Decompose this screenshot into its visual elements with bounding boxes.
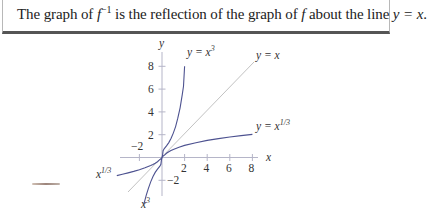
cubic-bottom-label: x3	[140, 196, 150, 210]
line-equation: y = x	[393, 6, 423, 22]
y-tick-label: 8	[148, 60, 154, 72]
x-axis-label: x	[265, 151, 272, 163]
identity-line	[128, 62, 254, 192]
axes	[120, 52, 258, 196]
svg-text:y = x1/3: y = x1/3	[255, 118, 290, 133]
x-tick-label: −2	[131, 140, 143, 152]
y-tick-label: −2	[167, 174, 179, 186]
y-tick-label: 2	[148, 129, 154, 141]
statement-period: .	[423, 6, 427, 22]
identity-label: y = x	[255, 49, 281, 62]
svg-text:x3: x3	[140, 196, 150, 210]
y-tick-label: 4	[148, 106, 154, 118]
cube-root-left-label: x1/3	[95, 166, 111, 180]
stray-mark	[32, 183, 60, 185]
x-tick-label: 4	[204, 162, 210, 174]
cube-root-right-label: y = x1/3	[255, 118, 290, 133]
y-tick-label: 6	[148, 83, 154, 95]
svg-text:y = x3: y = x3	[186, 44, 215, 59]
x-tick-label: 8	[249, 162, 255, 174]
y-axis-label: y	[158, 37, 165, 50]
svg-text:x1/3: x1/3	[95, 166, 111, 180]
x-tick-label: 6	[226, 162, 232, 174]
cubic-top-label: y = x3	[186, 44, 215, 59]
x-tick-label: 2	[181, 162, 187, 174]
